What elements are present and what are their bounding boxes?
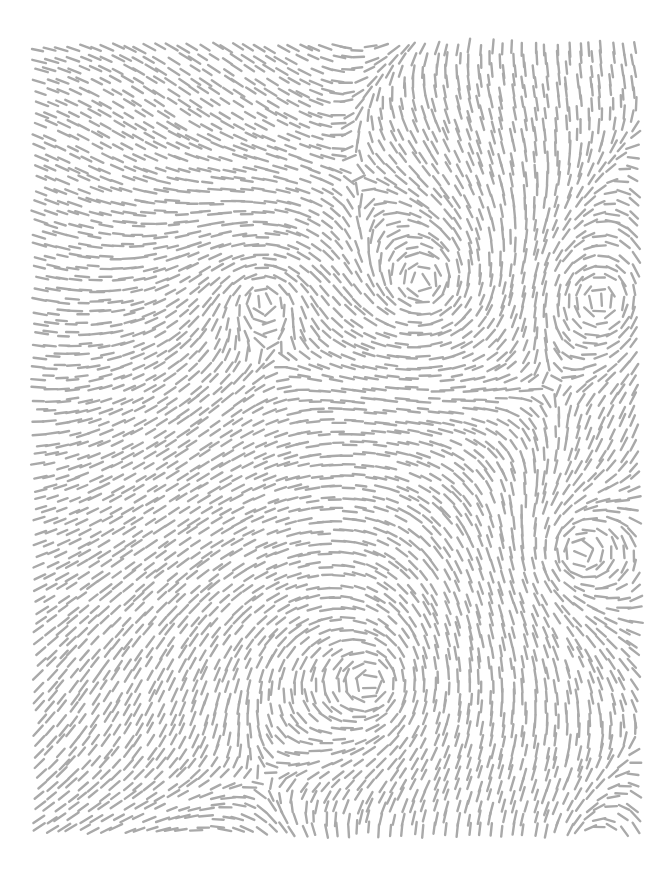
flow-field-artwork (0, 0, 672, 879)
